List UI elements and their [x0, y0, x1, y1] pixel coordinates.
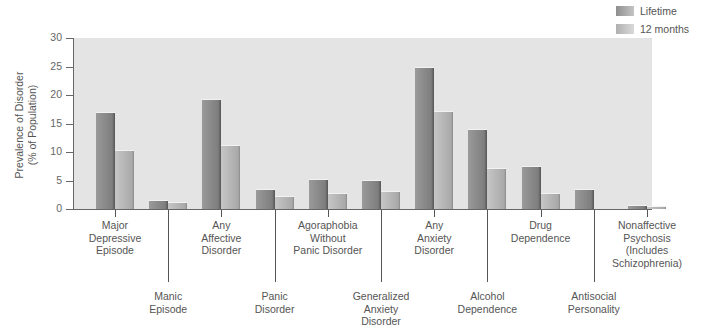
- legend-item-lifetime: Lifetime: [616, 3, 689, 19]
- category-label-line: Panic Disorder: [293, 244, 362, 257]
- category-label-line: Affective: [201, 232, 241, 245]
- y-axis-label-line1: Prevalence of Disorder: [13, 55, 26, 195]
- bar-12-months: [647, 206, 666, 209]
- y-tick: [66, 152, 73, 153]
- bar-12-months: [541, 193, 560, 209]
- bar-12-months: [221, 145, 240, 209]
- category-leader-line: [647, 210, 648, 217]
- bar-12-months: [168, 202, 187, 209]
- y-tick: [66, 181, 73, 182]
- bar-lifetime: [575, 189, 594, 209]
- category-label-line: Any: [201, 219, 241, 232]
- bar-lifetime: [309, 179, 328, 209]
- category-label-line: Episode: [89, 244, 142, 257]
- category-label-line: Anxiety: [414, 232, 454, 245]
- category-label-line: Manic: [149, 290, 187, 303]
- y-tick-label: 20: [40, 88, 62, 100]
- category-label: DrugDependence: [511, 219, 571, 244]
- bar-lifetime: [202, 99, 221, 209]
- category-label-line: Nonaffective: [612, 219, 682, 232]
- y-axis-label-line2: (% of Population): [26, 55, 39, 195]
- legend: Lifetime 12 months: [616, 3, 689, 39]
- category-label: AnyAffectiveDisorder: [201, 219, 241, 257]
- category-label-line: Alcohol: [458, 290, 518, 303]
- category-label: AnyAnxietyDisorder: [414, 219, 454, 257]
- bar-lifetime: [468, 129, 487, 209]
- category-leader-line: [168, 210, 169, 282]
- category-label-line: Psychosis: [612, 232, 682, 245]
- category-label: ManicEpisode: [149, 290, 187, 315]
- bar-lifetime: [149, 200, 168, 209]
- category-label: MajorDepressiveEpisode: [89, 219, 142, 257]
- y-tick: [66, 38, 73, 39]
- category-label-line: (Includes: [612, 244, 682, 257]
- category-leader-line: [275, 210, 276, 282]
- category-label-line: Disorder: [414, 244, 454, 257]
- category-label-line: Panic: [255, 290, 295, 303]
- y-tick: [66, 124, 73, 125]
- category-leader-line: [328, 210, 329, 217]
- y-tick-label: 15: [40, 117, 62, 129]
- category-label-line: Anxiety: [353, 303, 410, 316]
- category-label-line: Any: [414, 219, 454, 232]
- category-label-line: Personality: [568, 303, 620, 316]
- category-label-line: Disorder: [255, 303, 295, 316]
- y-tick-label: 30: [40, 31, 62, 43]
- bar-12-months: [487, 168, 506, 209]
- legend-label-lifetime: Lifetime: [640, 5, 677, 17]
- y-axis: [73, 38, 74, 210]
- bar-lifetime: [522, 166, 541, 209]
- bar-lifetime: [415, 67, 434, 209]
- category-label: AntisocialPersonality: [568, 290, 620, 315]
- bar-12-months: [275, 196, 294, 209]
- bar-12-months: [115, 150, 134, 209]
- category-label: AlcoholDependence: [458, 290, 518, 315]
- category-leader-line: [487, 210, 488, 282]
- bar-lifetime: [628, 205, 647, 209]
- category-label-line: Dependence: [511, 232, 571, 245]
- y-tick: [66, 67, 73, 68]
- category-label-line: Depressive: [89, 232, 142, 245]
- bar-lifetime: [362, 180, 381, 209]
- category-label-line: Episode: [149, 303, 187, 316]
- category-leader-line: [594, 210, 595, 282]
- bar-lifetime: [96, 112, 115, 209]
- category-label-line: Major: [89, 219, 142, 232]
- category-label: NonaffectivePsychosis(IncludesSchizophre…: [612, 219, 682, 269]
- bar-12-months: [381, 191, 400, 209]
- category-leader-line: [115, 210, 116, 217]
- category-leader-line: [541, 210, 542, 217]
- legend-swatch-12-months: [616, 24, 634, 34]
- legend-label-12-months: 12 months: [640, 23, 689, 35]
- bar-lifetime: [256, 189, 275, 209]
- bar-12-months: [328, 193, 347, 209]
- category-label: PanicDisorder: [255, 290, 295, 315]
- bar-12-months: [434, 111, 453, 209]
- y-tick-label: 0: [40, 202, 62, 214]
- category-label-line: Antisocial: [568, 290, 620, 303]
- y-tick: [66, 209, 73, 210]
- y-tick-label: 25: [40, 60, 62, 72]
- legend-swatch-lifetime: [616, 6, 634, 16]
- y-tick: [66, 95, 73, 96]
- category-leader-line: [381, 210, 382, 282]
- category-label-line: Generalized: [353, 290, 410, 303]
- category-label-line: Without: [293, 232, 362, 245]
- category-label-line: Drug: [511, 219, 571, 232]
- category-leader-line: [434, 210, 435, 217]
- category-label-line: Schizophrenia): [612, 257, 682, 270]
- y-tick-label: 10: [40, 145, 62, 157]
- y-tick-label: 5: [40, 174, 62, 186]
- category-label-line: Dependence: [458, 303, 518, 316]
- category-label: AgoraphobiaWithoutPanic Disorder: [293, 219, 362, 257]
- legend-item-12-months: 12 months: [616, 21, 689, 37]
- x-axis: [73, 209, 652, 210]
- category-label-line: Agoraphobia: [293, 219, 362, 232]
- category-label: GeneralizedAnxietyDisorder: [353, 290, 410, 328]
- category-label-line: Disorder: [353, 315, 410, 328]
- y-axis-label: Prevalence of Disorder (% of Population): [13, 55, 39, 195]
- category-label-line: Disorder: [201, 244, 241, 257]
- category-leader-line: [221, 210, 222, 217]
